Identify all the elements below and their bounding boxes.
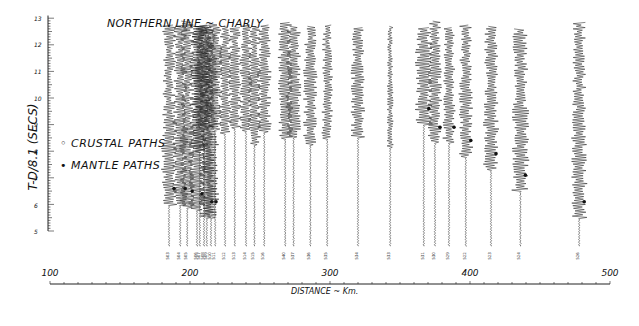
- seismogram-trace: [387, 26, 393, 246]
- seismogram-trace: [415, 28, 433, 246]
- mantle-path-dot: [582, 200, 586, 204]
- seismogram-trace: [240, 25, 253, 246]
- station-label: 530: [431, 252, 436, 260]
- station-label: 522: [462, 252, 467, 260]
- seismogram-trace: [459, 25, 473, 246]
- station-label: 529: [445, 252, 450, 260]
- mantle-path-dot: [469, 139, 473, 143]
- station-label: 504: [176, 252, 181, 260]
- seismogram-trace: [512, 29, 530, 246]
- seismogram-trace: [161, 25, 177, 246]
- seismogram-trace: [278, 22, 293, 246]
- mantle-path-dot: [427, 107, 431, 111]
- station-label: 512: [221, 252, 226, 260]
- mantle-path-dot: [438, 125, 442, 129]
- station-label: 536: [306, 252, 311, 260]
- station-label: 537: [290, 252, 295, 260]
- seismogram-trace: [571, 22, 587, 246]
- seismogram-trace: [443, 28, 456, 246]
- seismogram-trace: [322, 25, 333, 246]
- station-label: 503: [165, 252, 170, 260]
- seismogram-trace: [428, 21, 442, 246]
- station-label: 516: [260, 252, 265, 260]
- station-label: 523: [487, 252, 492, 260]
- station-label: 524: [516, 252, 521, 260]
- station-label: 534: [354, 252, 359, 260]
- seismogram-trace: [229, 28, 242, 246]
- seismogram-trace: [303, 26, 317, 246]
- station-label: 531: [420, 252, 425, 260]
- station-label: 513: [231, 252, 236, 260]
- seismogram-trace: [257, 25, 271, 246]
- seismogram-plot: 5035045055065075085095105115125135145155…: [0, 0, 639, 326]
- seismogram-trace: [351, 28, 365, 246]
- station-label: 515: [250, 252, 255, 260]
- mantle-path-dot: [494, 152, 498, 156]
- seismogram-trace: [483, 26, 499, 246]
- station-label: 540: [281, 252, 286, 260]
- station-label: 514: [242, 252, 247, 260]
- station-label: 535: [323, 252, 328, 260]
- station-label: 505: [183, 252, 188, 260]
- mantle-path-dot: [452, 125, 456, 129]
- station-label: 511: [211, 252, 216, 260]
- station-label: 526: [575, 252, 580, 260]
- seismogram-trace: [219, 26, 231, 246]
- mantle-path-dot: [524, 173, 528, 177]
- seismogram-trace: [248, 26, 261, 246]
- station-label: 533: [386, 252, 391, 260]
